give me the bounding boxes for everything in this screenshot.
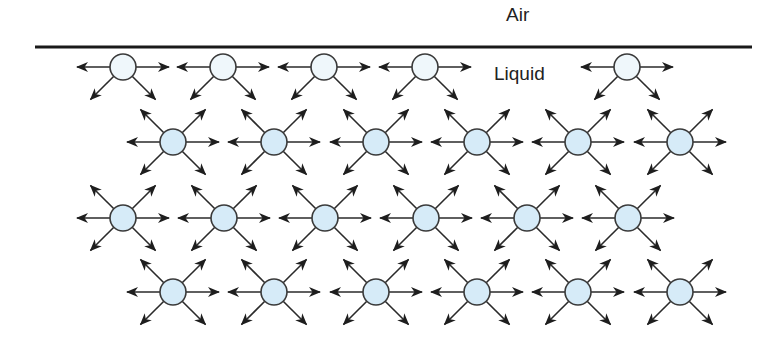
bulk-molecule [228, 259, 320, 324]
force-arrow-up-left [393, 185, 416, 208]
force-arrow-up-right [587, 109, 610, 132]
surface-molecule [177, 54, 269, 100]
bulk-molecule [380, 185, 472, 250]
force-arrow-up-left [595, 185, 618, 208]
force-arrow-down-left [140, 151, 163, 174]
bulk-molecule [532, 109, 624, 174]
force-arrow-down-left [241, 151, 264, 174]
bulk-molecule [330, 109, 422, 174]
force-arrow-up-right [233, 185, 256, 208]
force-arrow-up-left [292, 185, 315, 208]
molecule-circle [261, 279, 287, 305]
force-arrow-up-right [132, 185, 155, 208]
force-arrow-down-right [435, 227, 458, 250]
force-arrow-down-right [636, 76, 659, 99]
force-arrow-up-left [545, 109, 568, 132]
force-arrow-up-left [343, 259, 366, 282]
bulk-molecule [634, 109, 726, 174]
force-arrow-up-right [385, 259, 408, 282]
molecule-circle [667, 279, 693, 305]
force-arrow-up-right [587, 259, 610, 282]
force-arrow-down-left [647, 301, 670, 324]
liquid-label: Liquid [494, 63, 545, 85]
bulk-molecule [178, 185, 270, 250]
molecule-circle [614, 54, 640, 80]
force-arrow-up-right [334, 185, 357, 208]
force-arrow-down-left [594, 76, 617, 99]
bulk-molecule [77, 185, 169, 250]
force-arrow-up-left [241, 109, 264, 132]
force-arrow-up-right [536, 185, 559, 208]
bulk-molecule [634, 259, 726, 324]
force-arrow-down-right [587, 301, 610, 324]
molecule-circle [615, 205, 641, 231]
force-arrow-up-right [435, 185, 458, 208]
force-arrow-down-right [232, 76, 255, 99]
molecule-circle [311, 54, 337, 80]
molecule-circle [565, 279, 591, 305]
force-arrow-down-right [385, 151, 408, 174]
force-arrow-down-left [393, 227, 416, 250]
force-arrow-down-right [283, 301, 306, 324]
surface-molecule [278, 54, 370, 100]
bulk-molecule [228, 109, 320, 174]
molecule-circle [160, 279, 186, 305]
force-arrow-down-left [595, 227, 618, 250]
force-arrow-down-right [486, 301, 509, 324]
force-arrow-down-right [536, 227, 559, 250]
force-arrow-down-left [241, 301, 264, 324]
force-arrow-up-left [444, 109, 467, 132]
force-arrow-up-right [182, 109, 205, 132]
force-arrow-down-right [182, 151, 205, 174]
bulk-molecule [532, 259, 624, 324]
molecule-circle [363, 279, 389, 305]
force-arrow-down-right [689, 301, 712, 324]
force-arrow-down-left [392, 76, 415, 99]
molecule-circle [312, 205, 338, 231]
force-arrow-down-left [545, 301, 568, 324]
molecule-lattice [77, 54, 726, 325]
bulk-molecule [127, 109, 219, 174]
bulk-molecule [431, 109, 523, 174]
force-arrow-up-right [689, 259, 712, 282]
force-arrow-up-right [689, 109, 712, 132]
force-arrow-down-right [132, 76, 155, 99]
bulk-molecule [582, 185, 674, 250]
force-arrow-up-left [444, 259, 467, 282]
force-arrow-down-right [689, 151, 712, 174]
bulk-molecule [481, 185, 573, 250]
force-arrow-up-right [486, 109, 509, 132]
molecule-circle [464, 129, 490, 155]
force-arrow-down-left [343, 301, 366, 324]
force-arrow-down-right [283, 151, 306, 174]
force-arrow-down-left [291, 76, 314, 99]
bulk-molecule [127, 259, 219, 324]
molecule-circle [514, 205, 540, 231]
force-arrow-up-right [283, 259, 306, 282]
bulk-molecule [431, 259, 523, 324]
molecule-circle [667, 129, 693, 155]
force-arrow-down-left [140, 301, 163, 324]
molecule-circle [211, 205, 237, 231]
force-arrow-up-left [647, 259, 670, 282]
bulk-molecule [279, 185, 371, 250]
force-arrow-down-right [385, 301, 408, 324]
force-arrow-down-left [343, 151, 366, 174]
force-arrow-up-left [241, 259, 264, 282]
force-arrow-down-right [233, 227, 256, 250]
force-arrow-down-left [190, 76, 213, 99]
force-arrow-down-left [494, 227, 517, 250]
molecule-circle [412, 54, 438, 80]
air-label: Air [506, 4, 529, 26]
force-arrow-down-left [647, 151, 670, 174]
force-arrow-up-left [140, 109, 163, 132]
force-arrow-up-left [90, 185, 113, 208]
force-arrow-up-left [545, 259, 568, 282]
force-arrow-up-left [494, 185, 517, 208]
force-arrow-down-right [434, 76, 457, 99]
force-arrow-down-right [637, 227, 660, 250]
force-arrow-up-left [191, 185, 214, 208]
force-arrow-up-right [486, 259, 509, 282]
force-arrow-down-left [191, 227, 214, 250]
force-arrow-up-right [385, 109, 408, 132]
